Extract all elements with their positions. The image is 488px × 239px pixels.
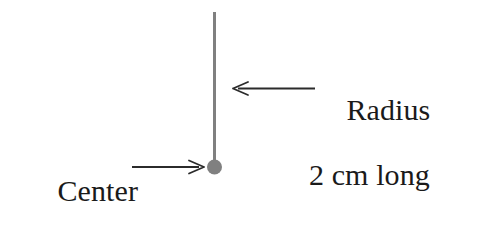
radius-annotation-label: Radius 2 cm long [316,62,430,239]
center-annotation-label: Center point [27,143,138,239]
radius-left-arrow [233,82,315,95]
radius-label-line-2: 2 cm long [309,159,430,191]
radius-label-line-1: Radius [346,93,430,126]
center-label-line-1: Center [57,174,138,207]
diagram-canvas: Radius 2 cm long Center point [0,0,488,239]
center-right-arrow [132,161,204,174]
center-point-dot [207,160,222,175]
